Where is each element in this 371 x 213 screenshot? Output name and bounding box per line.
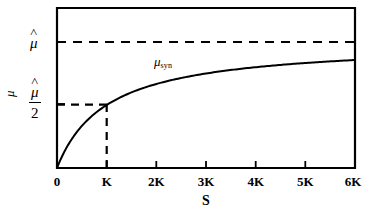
x-tick-label-0: 0 — [54, 175, 61, 188]
fraction-numerator: ˄μ — [29, 84, 41, 101]
x-tick-label-6K: 6K — [345, 175, 362, 188]
curve-label-subscript: syn — [161, 61, 173, 70]
x-tick-label-5K: 5K — [297, 175, 314, 188]
x-tick-label-2K: 2K — [148, 175, 165, 188]
fraction: ˄μ 2 — [29, 84, 41, 121]
monod-curve — [57, 60, 355, 168]
y-tick-label-mu-hat: ˄μ — [30, 35, 38, 51]
plot-frame — [57, 8, 355, 168]
x-tick-label-3K: 3K — [198, 175, 215, 188]
curve-label-mu-syn: μsyn — [154, 55, 172, 70]
chart-figure: μ ˄μ ˄μ 2 μsyn 0 K 2K 3K 4K 5K 6K S — [0, 0, 371, 213]
fraction-bar — [29, 102, 41, 103]
x-tick-label-4K: 4K — [247, 175, 264, 188]
y-axis-title: μ — [3, 90, 16, 97]
caret-accent-icon: ˄ — [30, 25, 37, 38]
mu-hat-glyph: ˄μ — [30, 36, 38, 51]
y-tick-label-mu-hat-half: ˄μ 2 — [29, 84, 41, 121]
mu-hat-glyph: ˄μ — [31, 85, 39, 100]
fraction-denominator: 2 — [29, 104, 41, 121]
x-tick-label-K: K — [102, 175, 112, 188]
caret-accent-icon: ˄ — [31, 74, 38, 87]
x-axis-title: S — [202, 194, 210, 208]
